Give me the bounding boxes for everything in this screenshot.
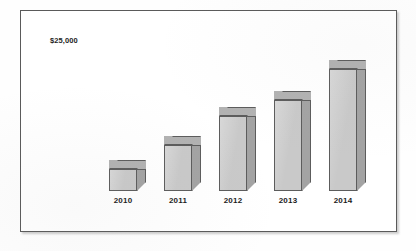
x-axis-label-2012: 2012	[219, 196, 247, 205]
bar-front-face-2012	[219, 116, 247, 191]
bar-top-face-2013	[274, 91, 311, 100]
bar-front-face-2011	[164, 145, 192, 191]
bar-side-face-2014	[357, 69, 366, 191]
bar-side-face-2013	[302, 100, 311, 191]
bar-front-face-2013	[274, 100, 302, 191]
bar-front-face-2010	[109, 169, 137, 191]
x-axis-label-2013: 2013	[274, 196, 302, 205]
chart-frame: $25,000 2010 2011	[20, 10, 397, 232]
x-axis-label-2011: 2011	[164, 196, 192, 205]
plot-area: $25,000 2010 2011	[21, 11, 396, 231]
bar-top-face-2014	[329, 60, 366, 69]
bar-top-face-2011	[164, 136, 201, 145]
bar-side-face-2010	[137, 169, 146, 191]
scanned-page: $25,000 2010 2011	[0, 0, 416, 251]
x-axis-label-2014: 2014	[329, 196, 357, 205]
bar-top-face-2010	[109, 160, 146, 169]
bar-front-face-2014	[329, 69, 357, 191]
bar-side-face-2012	[247, 116, 256, 191]
bar-top-face-2012	[219, 107, 256, 116]
x-axis-label-2010: 2010	[109, 196, 137, 205]
value-annotation-label: $25,000	[50, 36, 78, 45]
bar-side-face-2011	[192, 145, 201, 191]
